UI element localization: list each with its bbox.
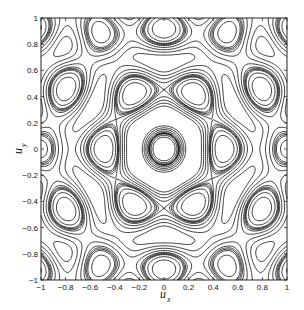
x-axis-label-main: u	[160, 287, 166, 301]
y-tick-label: 0.8	[27, 40, 39, 49]
x-tick-label: 1	[285, 283, 290, 292]
plot-background	[41, 18, 287, 280]
x-tick-label: −0.2	[132, 283, 148, 292]
y-tick-label: −0.8	[22, 250, 38, 259]
x-tick-label: 0.8	[257, 283, 269, 292]
y-tick-label: 0.6	[27, 66, 39, 75]
x-tick-label: 0.6	[232, 283, 244, 292]
x-tick-label: −0.6	[82, 283, 98, 292]
plot-area	[41, 18, 287, 280]
y-axis-label-main: u	[11, 148, 25, 154]
y-axis-label: u y	[11, 143, 28, 154]
x-axis-label-sub: x	[166, 295, 171, 304]
y-tick-label: 0.4	[27, 93, 39, 102]
x-tick-label: −0.8	[58, 283, 74, 292]
y-tick-label: −0.6	[22, 224, 38, 233]
x-tick-label: 0.4	[208, 283, 220, 292]
y-tick-label: −1	[29, 276, 39, 285]
y-tick-label: 0.2	[27, 119, 39, 128]
y-tick-label: −0.2	[22, 171, 38, 180]
y-tick-label: 1	[34, 14, 39, 23]
y-axis-label-sub: y	[19, 143, 28, 148]
x-tick-label: 0.2	[183, 283, 195, 292]
y-tick-label: −0.4	[22, 197, 38, 206]
x-axis-label: u x	[160, 287, 171, 304]
x-tick-label: −0.4	[107, 283, 123, 292]
y-tick-label: 0	[34, 145, 39, 154]
contour-figure: −1−0.8−0.6−0.4−0.200.20.40.60.81 −1−0.8−…	[0, 0, 304, 310]
